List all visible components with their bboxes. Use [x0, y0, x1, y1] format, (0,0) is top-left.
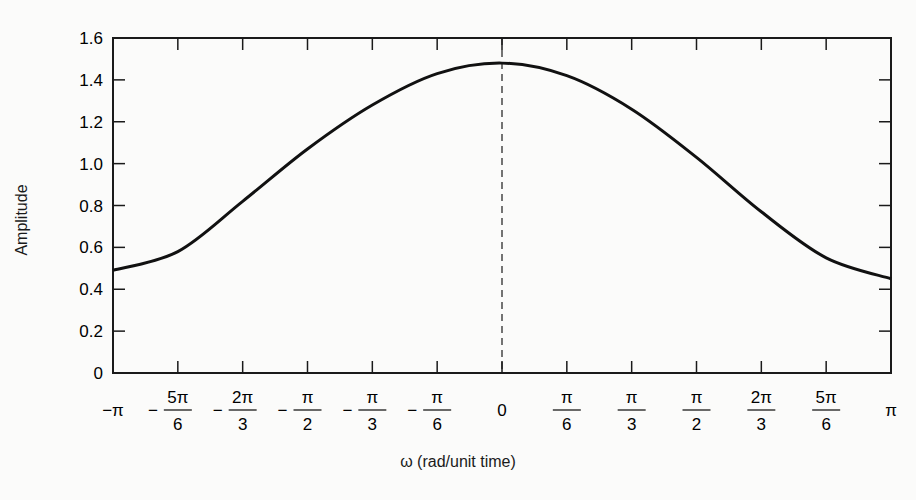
x-tick-sign: −: [278, 401, 288, 420]
x-tick-denominator: 3: [627, 415, 636, 434]
y-tick-label: 0.2: [79, 322, 103, 341]
x-tick-numerator: π: [431, 388, 443, 407]
x-tick-sign: −: [342, 401, 352, 420]
x-tick-numerator: 5π: [167, 388, 188, 407]
x-tick-numerator: π: [626, 388, 638, 407]
y-tick-label: 1.2: [79, 113, 103, 132]
x-tick-denominator: 6: [562, 415, 571, 434]
y-tick-label: 0.6: [79, 238, 103, 257]
x-axis-title: ω (rad/unit time): [0, 453, 916, 471]
x-tick-numerator: π: [366, 388, 378, 407]
x-tick-denominator: 6: [432, 415, 441, 434]
y-tick-label: 1.0: [79, 155, 103, 174]
x-tick-label: 0: [497, 401, 506, 420]
x-tick-denominator: 6: [173, 415, 182, 434]
x-tick-numerator: 2π: [751, 388, 772, 407]
x-tick-denominator: 3: [238, 415, 247, 434]
x-tick-numerator: 2π: [232, 388, 253, 407]
x-tick-label: −π: [102, 401, 124, 420]
y-axis-title: Amplitude: [13, 184, 31, 255]
x-tick-denominator: 2: [303, 415, 312, 434]
x-tick-sign: −: [407, 401, 417, 420]
x-tick-numerator: 5π: [816, 388, 837, 407]
y-tick-label: 1.6: [79, 29, 103, 48]
x-tick-numerator: π: [691, 388, 703, 407]
x-tick-label: π: [885, 401, 897, 420]
amplitude-chart: 00.20.40.60.81.01.21.41.6−π5π6−2π3−π2−π3…: [0, 0, 916, 500]
x-tick-numerator: π: [302, 388, 314, 407]
x-tick-denominator: 6: [821, 415, 830, 434]
x-tick-denominator: 3: [368, 415, 377, 434]
y-tick-label: 0: [94, 364, 103, 383]
x-tick-sign: −: [213, 401, 223, 420]
y-tick-label: 0.8: [79, 197, 103, 216]
x-tick-sign: −: [148, 401, 158, 420]
x-tick-denominator: 3: [757, 415, 766, 434]
x-tick-denominator: 2: [692, 415, 701, 434]
x-tick-numerator: π: [561, 388, 573, 407]
y-tick-label: 0.4: [79, 280, 103, 299]
y-tick-label: 1.4: [79, 71, 103, 90]
